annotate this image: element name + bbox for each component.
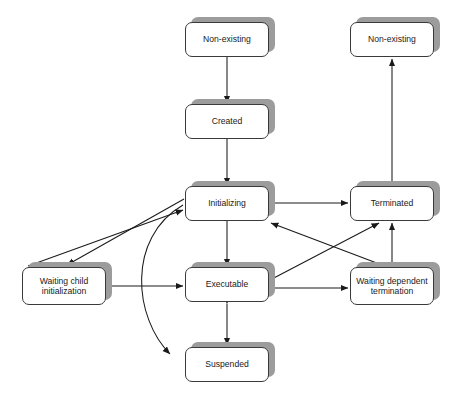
edge-initializing-to-waiting-child — [67, 199, 184, 265]
state-node-initializing[interactable]: Initializing — [185, 186, 269, 221]
node-face: Initializing — [185, 186, 269, 221]
node-label: Terminated — [371, 198, 414, 208]
node-face: Non-existing — [350, 22, 434, 57]
state-node-suspended[interactable]: Suspended — [185, 347, 269, 382]
edge-initializing-to-suspended-curve — [142, 205, 183, 354]
node-label-line-1: Waiting dependent — [356, 276, 427, 286]
node-face: Terminated — [350, 186, 434, 221]
node-face: Executable — [185, 267, 269, 302]
node-label-line-2: initialization — [40, 286, 88, 296]
state-node-waiting-dependent-termination[interactable]: Waiting dependent termination — [350, 267, 434, 305]
node-label: Non-existing — [368, 34, 416, 44]
state-node-waiting-child-initialization[interactable]: Waiting child initialization — [22, 267, 106, 305]
node-label: Created — [212, 116, 243, 126]
node-face: Waiting dependent termination — [350, 267, 434, 305]
node-label: Initializing — [208, 198, 246, 208]
node-label: Non-existing — [203, 34, 251, 44]
state-node-executable[interactable]: Executable — [185, 267, 269, 302]
node-face: Non-existing — [185, 22, 269, 57]
state-node-created[interactable]: Created — [185, 104, 269, 139]
node-label-line-1: Waiting child — [40, 276, 88, 286]
edge-waiting-dependent-to-initializing — [271, 223, 382, 265]
node-face: Suspended — [185, 347, 269, 382]
node-face: Waiting child initialization — [22, 267, 106, 305]
state-node-terminated[interactable]: Terminated — [350, 186, 434, 221]
state-node-nonexisting-end[interactable]: Non-existing — [350, 22, 434, 57]
node-label: Suspended — [205, 359, 249, 369]
state-diagram-canvas: Non-existing Created Initializing Execut… — [0, 0, 455, 401]
state-node-nonexisting-start[interactable]: Non-existing — [185, 22, 269, 57]
node-face: Created — [185, 104, 269, 139]
node-label-line-2: termination — [356, 286, 427, 296]
edge-waiting-child-to-initializing — [28, 210, 183, 266]
node-label: Executable — [206, 279, 249, 289]
